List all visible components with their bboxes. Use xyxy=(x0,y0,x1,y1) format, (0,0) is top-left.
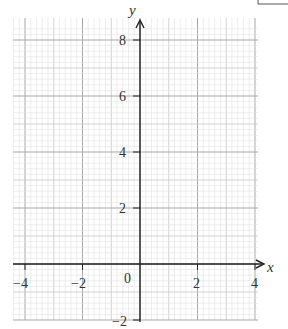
y-tick-label-6: 6 xyxy=(119,89,126,104)
y-tick-label-8: 8 xyxy=(119,33,126,48)
y-axis xyxy=(136,20,144,322)
x-axis-label: x xyxy=(266,259,274,275)
origin-label: 0 xyxy=(124,271,131,286)
y-tick-label-4: 4 xyxy=(119,145,126,160)
y-axis-label: y xyxy=(127,2,136,18)
grid-lines xyxy=(13,18,258,320)
y-tick-label-2: 2 xyxy=(119,201,126,216)
x-tick-label-2: 2 xyxy=(193,276,200,291)
x-tick-label-4: 4 xyxy=(251,276,258,291)
coordinate-grid: y x 8 6 4 2 −2 0 −4 −2 2 4 xyxy=(0,0,288,329)
x-tick-label-neg2: −2 xyxy=(71,276,86,291)
x-tick-label-neg4: −4 xyxy=(13,276,28,291)
answer-box-fragment xyxy=(258,0,288,4)
y-tick-label-neg2: −2 xyxy=(112,314,127,329)
